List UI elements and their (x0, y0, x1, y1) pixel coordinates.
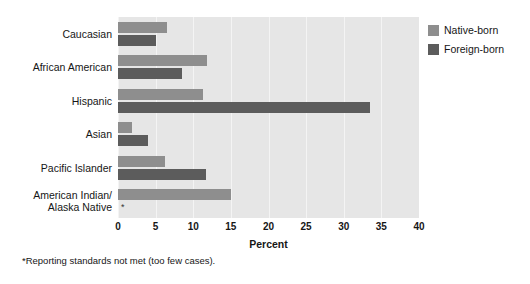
legend-label: Foreign-born (444, 43, 504, 55)
suppressed-value-marker: * (121, 202, 125, 213)
gridline (381, 17, 382, 218)
category-label: Hispanic (0, 95, 112, 107)
gridline (193, 17, 194, 218)
category-label: Asian (0, 128, 112, 140)
category-label: African American (0, 61, 112, 73)
x-tick-label: 35 (369, 221, 393, 233)
category-label: Caucasian (0, 28, 112, 40)
x-axis-title: Percent (118, 238, 419, 250)
x-tick-label: 20 (257, 221, 281, 233)
bar (118, 135, 148, 146)
gridline (118, 17, 119, 218)
bar (118, 102, 370, 113)
x-tick-label: 10 (181, 221, 205, 233)
x-tick-label: 25 (294, 221, 318, 233)
chart-footnote: *Reporting standards not met (too few ca… (22, 255, 215, 267)
plot-area: * (118, 17, 419, 218)
legend-item: Native-born (428, 24, 504, 36)
gridline (156, 17, 157, 218)
x-tick-label: 40 (407, 221, 431, 233)
gridline (344, 17, 345, 218)
category-label: Pacific Islander (0, 162, 112, 174)
bar-chart: * CaucasianAfrican AmericanHispanicAsian… (0, 0, 530, 284)
bar (118, 55, 207, 66)
bar (118, 68, 182, 79)
gridline (269, 17, 270, 218)
x-tick-label: 0 (106, 221, 130, 233)
gridline (306, 17, 307, 218)
category-label: American Indian/ Alaska Native (0, 189, 112, 213)
legend-swatch-icon (428, 44, 439, 55)
legend-label: Native-born (444, 24, 498, 36)
legend-swatch-icon (428, 25, 439, 36)
bar (118, 89, 203, 100)
chart-legend: Native-bornForeign-born (428, 24, 504, 62)
bar (118, 156, 165, 167)
x-tick-label: 5 (144, 221, 168, 233)
bar (118, 122, 132, 133)
legend-item: Foreign-born (428, 43, 504, 55)
x-tick-label: 30 (332, 221, 356, 233)
x-tick-label: 15 (219, 221, 243, 233)
bar (118, 22, 167, 33)
bar (118, 35, 156, 46)
gridline (231, 17, 232, 218)
bar (118, 169, 206, 180)
bar (118, 189, 231, 200)
